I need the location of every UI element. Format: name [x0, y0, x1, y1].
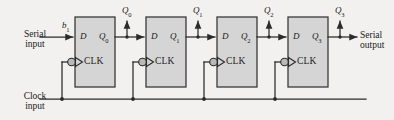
- pin-clk-2: CLK: [226, 56, 246, 66]
- junction-q2: [267, 35, 270, 38]
- clock-input-label: Clock input: [12, 91, 58, 112]
- inversion-bubble-icon-1: [139, 58, 147, 66]
- pin-d-2: D: [222, 32, 229, 42]
- output-label-q2: Q2: [264, 6, 274, 17]
- flipflop-box-1: [146, 17, 186, 87]
- flipflop-box-0: [75, 17, 115, 87]
- flipflop-box-2: [217, 17, 257, 87]
- inversion-bubble-icon-3: [281, 58, 289, 66]
- output-label-q3: Q3: [335, 6, 345, 17]
- clock-junction-3: [273, 97, 277, 101]
- pin-q-0: Q0: [99, 32, 109, 43]
- pin-q-2: Q2: [241, 32, 251, 43]
- pin-d-0: D: [80, 32, 87, 42]
- junction-q1: [196, 35, 199, 38]
- flipflop-boxes: [75, 17, 328, 87]
- shift-register-diagram: Serial input b1 Clock input Serial outpu…: [0, 0, 394, 120]
- junction-q3: [338, 35, 341, 38]
- pin-clk-3: CLK: [297, 56, 317, 66]
- inversion-bubble-icon-2: [210, 58, 218, 66]
- circuit-schematic: [0, 0, 394, 120]
- flipflop-box-3: [288, 17, 328, 87]
- pin-q-3: Q3: [312, 32, 322, 43]
- pin-q-1: Q1: [170, 32, 180, 43]
- inversion-bubble-icon-0: [68, 58, 76, 66]
- pin-clk-1: CLK: [155, 56, 175, 66]
- pin-clk-0: CLK: [84, 56, 104, 66]
- pin-d-1: D: [151, 32, 158, 42]
- clock-junction-0: [60, 97, 64, 101]
- clock-junction-1: [131, 97, 135, 101]
- serial-input-signal-label: b1: [62, 21, 70, 32]
- output-label-q1: Q1: [193, 6, 203, 17]
- output-label-q0: Q0: [122, 6, 132, 17]
- serial-output-label: Serial output: [360, 30, 394, 51]
- serial-input-label: Serial input: [12, 29, 58, 50]
- clock-junction-2: [202, 97, 206, 101]
- pin-d-3: D: [293, 32, 300, 42]
- junction-q0: [125, 35, 128, 38]
